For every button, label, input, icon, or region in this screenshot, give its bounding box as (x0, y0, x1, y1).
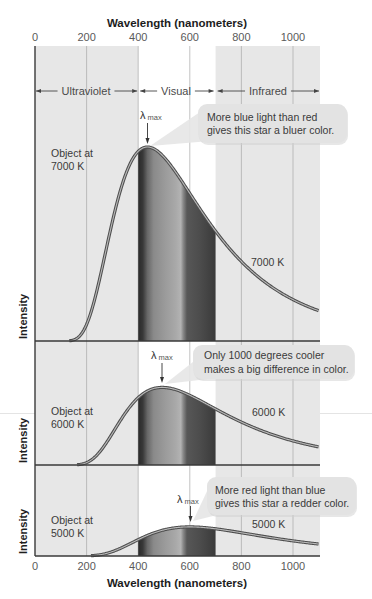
callout-text-line1: More red light than blue (215, 484, 325, 496)
y-axis-label-middle: Intensity (17, 417, 29, 463)
object-label-line2: 5000 K (51, 527, 84, 539)
tick-label: 600 (181, 31, 199, 43)
callout-5000k: More red light than blue gives this star… (193, 477, 357, 521)
spectral-region-labels: Ultraviolet Visual Infrared (36, 85, 319, 97)
tick-label: 0 (32, 560, 38, 572)
y-axis-label-bottom: Intensity (17, 508, 29, 554)
region-label-infrared: Infrared (249, 85, 287, 97)
tick-label: 1000 (281, 560, 305, 572)
tick-label: 400 (129, 560, 147, 572)
callout-box (207, 477, 356, 515)
object-label-line1: Object at (51, 147, 93, 159)
tick-label: 0 (32, 31, 38, 43)
region-label-visual: Visual (161, 85, 191, 97)
x-tick-labels-bottom: 0 200 400 600 800 1000 (32, 560, 305, 572)
tick-label: 800 (232, 31, 250, 43)
callout-text-line2: makes a big difference in color. (204, 363, 349, 375)
tick-label: 200 (77, 31, 95, 43)
object-label-line1: Object at (51, 405, 93, 417)
object-label-line1: Object at (51, 514, 93, 526)
callout-text-line1: Only 1000 degrees cooler (204, 349, 325, 361)
tick-label: 1000 (281, 31, 305, 43)
curve-label-5000k: 5000 K (252, 518, 285, 530)
callout-text-line2: gives this star a bluer color. (207, 124, 334, 136)
x-tick-labels-top: 0 200 400 600 800 1000 (32, 31, 305, 43)
tick-label: 600 (181, 560, 199, 572)
tick-label: 200 (77, 560, 95, 572)
region-label-ultraviolet: Ultraviolet (62, 85, 111, 97)
tick-label: 800 (232, 560, 250, 572)
x-axis-title-bottom: Wavelength (nanometers) (107, 577, 247, 589)
callout-text-line2: gives this star a redder color. (215, 497, 349, 509)
x-axis-title-top: Wavelength (nanometers) (107, 17, 247, 29)
object-label-line2: 6000 K (51, 418, 84, 430)
y-axis-label-top: Intensity (17, 293, 29, 339)
blackbody-spectra-figure: Ultraviolet Visual Infrared More blue li… (0, 0, 372, 599)
object-label-line2: 7000 K (51, 160, 84, 172)
curve-label-7000k: 7000 K (251, 256, 284, 268)
curve-label-6000k: 6000 K (252, 406, 285, 418)
callout-text-line1: More blue light than red (207, 111, 317, 123)
tick-label: 400 (129, 31, 147, 43)
